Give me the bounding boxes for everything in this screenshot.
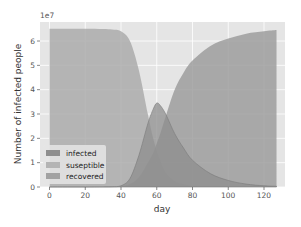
y-axis-ticks: 0123456 <box>30 37 40 192</box>
x-tick-label: 60 <box>152 191 162 200</box>
x-tick-label: 40 <box>116 191 126 200</box>
legend-swatch-suseptible <box>46 162 60 168</box>
x-tick-label: 80 <box>188 191 198 200</box>
x-axis-label: day <box>154 204 171 214</box>
legend-swatch-recovered <box>46 173 60 179</box>
legend-label-recovered: recovered <box>66 172 104 181</box>
y-tick-label: 2 <box>30 134 35 143</box>
chart-canvas: 020406080100120 0123456 1e7 day Number o… <box>0 0 301 227</box>
legend: infected suseptible recovered <box>43 145 106 184</box>
legend-swatch-infected <box>46 150 60 156</box>
y-offset-label: 1e7 <box>40 11 54 20</box>
legend-label-infected: infected <box>66 149 97 158</box>
y-axis-label: Number of infected people <box>13 43 23 164</box>
y-tick-label: 5 <box>30 61 35 70</box>
x-axis-ticks: 020406080100120 <box>47 187 271 200</box>
x-tick-label: 120 <box>257 191 272 200</box>
y-tick-label: 1 <box>30 158 35 167</box>
x-tick-label: 100 <box>221 191 236 200</box>
x-tick-label: 0 <box>47 191 52 200</box>
y-tick-label: 3 <box>30 110 35 119</box>
y-tick-label: 4 <box>30 85 35 94</box>
y-tick-label: 6 <box>30 37 35 46</box>
y-tick-label: 0 <box>30 183 35 192</box>
x-tick-label: 20 <box>80 191 90 200</box>
legend-label-suseptible: suseptible <box>66 161 105 170</box>
